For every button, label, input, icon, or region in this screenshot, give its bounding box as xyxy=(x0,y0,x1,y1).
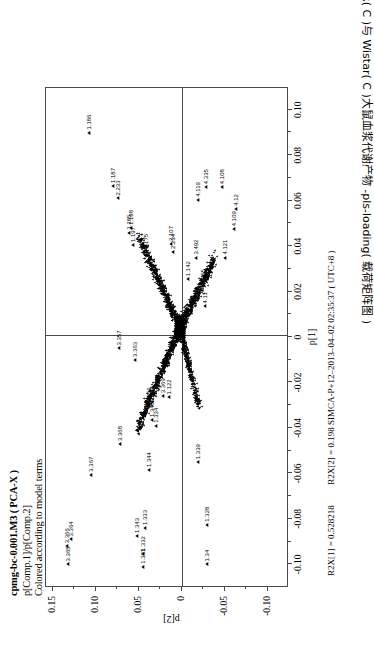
plot-area: 3.3653.3663.3643.3673.3683.3693.3563.363… xyxy=(45,87,288,587)
scatter-point xyxy=(173,312,175,314)
scatter-point-label: 1.333 xyxy=(141,510,147,525)
scatter-point xyxy=(156,288,158,290)
scatter-point xyxy=(163,368,165,370)
labeled-scatter-point xyxy=(201,282,204,286)
scatter-point xyxy=(183,341,185,343)
loading-plot-figure: cpmg-bc-0.001.M3 ( PCA-X ) p[Comp.1]/p[C… xyxy=(0,0,374,648)
scatter-point-label: 2.107 xyxy=(168,226,174,241)
scatter-point xyxy=(149,258,151,260)
labeled-scatter-point xyxy=(89,473,92,477)
scatter-point xyxy=(171,354,173,356)
y-tick-minor xyxy=(202,587,203,590)
scatter-point-label: 3.492 xyxy=(192,240,198,255)
x-tick-minor xyxy=(288,268,291,269)
x-tick-label: 0 xyxy=(293,335,303,340)
scatter-point xyxy=(137,432,139,434)
scatter-point xyxy=(151,383,153,385)
scatter-point xyxy=(136,430,138,432)
x-tick-label: 0.10 xyxy=(293,101,303,118)
labeled-scatter-point xyxy=(206,523,209,527)
scatter-point-label: 4.12 xyxy=(232,194,238,206)
labeled-scatter-point xyxy=(147,468,150,472)
scatter-point xyxy=(195,400,197,402)
scatter-point xyxy=(180,333,182,335)
scatter-point xyxy=(167,352,169,354)
scatter-point xyxy=(158,276,160,278)
scatter-point xyxy=(163,360,165,362)
scatter-point xyxy=(153,271,155,273)
scatter-point xyxy=(192,293,194,295)
scatter-point xyxy=(172,346,174,348)
scatter-point xyxy=(170,343,172,345)
scatter-point xyxy=(137,422,139,424)
scatter-point-label: 1.339 xyxy=(194,444,200,459)
labeled-scatter-point xyxy=(141,565,144,569)
scatter-point xyxy=(196,395,198,397)
scatter-point-label: 3.368 xyxy=(117,426,123,441)
scatter-point xyxy=(170,306,172,308)
x-tick-label: 0.06 xyxy=(293,192,303,209)
scatter-point xyxy=(192,377,194,379)
scatter-point xyxy=(178,322,180,324)
scatter-point xyxy=(157,367,159,369)
x-tick xyxy=(288,200,292,201)
scatter-point xyxy=(200,405,202,407)
scatter-point xyxy=(149,264,151,266)
scatter-point xyxy=(145,409,147,411)
scatter-point xyxy=(156,268,158,270)
x-tick xyxy=(288,518,292,519)
x-axis-title: p[1] xyxy=(306,329,317,346)
scatter-point xyxy=(139,422,141,424)
scatter-point xyxy=(209,266,211,268)
scatter-point xyxy=(157,281,159,283)
scatter-point xyxy=(190,298,192,300)
scatter-point xyxy=(191,385,193,387)
y-tick xyxy=(181,587,182,591)
labeled-scatter-point xyxy=(141,552,144,556)
plot-title-line-1: cpmg-bc-0.001.M3 ( PCA-X ) xyxy=(8,459,21,596)
scatter-point xyxy=(155,279,157,281)
scatter-point xyxy=(140,413,142,415)
scatter-point xyxy=(194,288,196,290)
scatter-point xyxy=(168,358,170,360)
scatter-point xyxy=(192,391,194,393)
scatter-point xyxy=(158,284,160,286)
scatter-point-label: 4.119 xyxy=(195,182,201,197)
scatter-point xyxy=(155,384,157,386)
scatter-point xyxy=(143,424,145,426)
y-tick-minor xyxy=(116,587,117,590)
scatter-point xyxy=(168,298,170,300)
plot-title-block: cpmg-bc-0.001.M3 ( PCA-X ) p[Comp.1]/p[C… xyxy=(8,459,46,596)
scatter-point xyxy=(185,354,187,356)
scatter-point xyxy=(197,404,199,406)
scatter-point xyxy=(166,360,168,362)
labeled-scatter-point xyxy=(232,227,235,231)
scatter-point-label: 1.198 xyxy=(128,210,134,225)
labeled-scatter-point xyxy=(206,563,209,567)
scatter-point xyxy=(190,308,192,310)
scatter-point xyxy=(142,415,144,417)
scatter-point xyxy=(140,426,142,428)
scatter-point-label: 1.175 xyxy=(142,234,148,249)
x-tick xyxy=(288,336,292,337)
scatter-point xyxy=(189,311,191,313)
scatter-point xyxy=(182,334,184,336)
scatter-point xyxy=(192,371,194,373)
x-tick-minor xyxy=(288,359,291,360)
scatter-point xyxy=(207,279,209,281)
labeled-scatter-point xyxy=(70,538,73,542)
scatter-point xyxy=(166,362,168,364)
scatter-point xyxy=(151,275,153,277)
labeled-scatter-point xyxy=(203,305,206,309)
scatter-point xyxy=(196,297,198,299)
y-axis-title: p[2] xyxy=(163,614,180,625)
scatter-point xyxy=(144,416,146,418)
x-tick-label: 0.08 xyxy=(293,147,303,164)
scatter-point xyxy=(162,370,164,372)
y-tick xyxy=(52,587,53,591)
scatter-point xyxy=(165,305,167,307)
scatter-point xyxy=(184,320,186,322)
scatter-point xyxy=(188,369,190,371)
scatter-point xyxy=(185,308,187,310)
scatter-point xyxy=(188,305,190,307)
